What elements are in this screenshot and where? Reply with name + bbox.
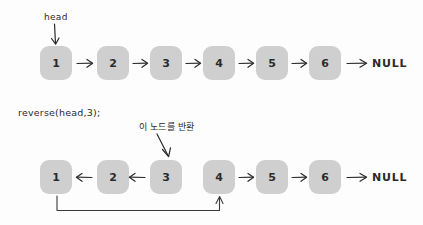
top-arrow-1-2	[77, 59, 93, 67]
top-node-3-value: 3	[150, 57, 182, 70]
return-pointer-bracket	[57, 196, 223, 211]
bottom-node-6: 6	[309, 160, 341, 194]
bottom-null-terminator: NULL	[372, 171, 407, 184]
annotation-pointer-arrow	[157, 134, 171, 157]
top-node-5-value: 5	[256, 57, 288, 70]
top-node-4: 4	[203, 46, 235, 80]
bottom-node-1-value: 1	[40, 171, 72, 184]
top-node-1-value: 1	[40, 57, 72, 70]
bottom-node-5: 5	[256, 160, 288, 194]
bottom-arrow-3-2	[129, 173, 145, 181]
bottom-node-3-value: 3	[150, 171, 182, 184]
top-node-4-value: 4	[203, 57, 235, 70]
bottom-node-2-value: 2	[97, 171, 129, 184]
top-node-6: 6	[309, 46, 341, 80]
top-node-1: 1	[40, 46, 72, 80]
bottom-node-2: 2	[97, 160, 129, 194]
linked-list-reverse-diagram: head 1 2 3 4 5 6 NULL reverse(head,3); 이…	[0, 0, 423, 225]
return-node-annotation: 이 노드를 반환	[139, 120, 194, 133]
bottom-arrow-6-null	[347, 173, 367, 181]
top-arrow-3-4	[186, 59, 201, 67]
bottom-node-6-value: 6	[309, 171, 341, 184]
bottom-node-3: 3	[150, 160, 182, 194]
bottom-node-5-value: 5	[256, 171, 288, 184]
top-arrow-4-5	[239, 59, 254, 67]
bottom-node-1: 1	[40, 160, 72, 194]
top-node-5: 5	[256, 46, 288, 80]
bottom-arrow-4-5	[239, 173, 254, 181]
top-arrow-6-null	[347, 59, 367, 67]
bottom-node-4: 4	[203, 160, 235, 194]
top-node-3: 3	[150, 46, 182, 80]
top-arrow-2-3	[133, 59, 148, 67]
bottom-arrow-2-1	[76, 173, 92, 181]
head-label: head	[44, 12, 68, 22]
head-pointer-arrow	[52, 24, 60, 44]
top-node-2-value: 2	[97, 57, 129, 70]
top-null-terminator: NULL	[372, 57, 407, 70]
top-node-6-value: 6	[309, 57, 341, 70]
top-node-2: 2	[97, 46, 129, 80]
bottom-node-4-value: 4	[203, 171, 235, 184]
function-call-label: reverse(head,3);	[18, 107, 100, 118]
bottom-arrow-5-6	[292, 173, 307, 181]
top-arrow-5-6	[292, 59, 307, 67]
